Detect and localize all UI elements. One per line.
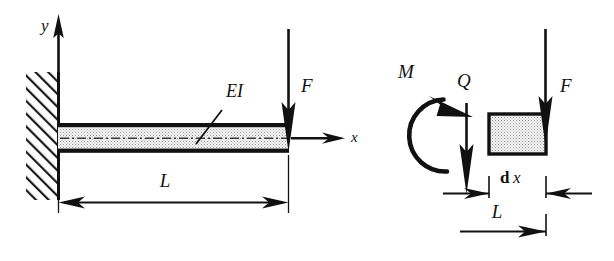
load-label-F-right: F (559, 75, 572, 96)
fixed-support-hatching (26, 72, 59, 200)
length-label-L-left: L (159, 170, 171, 191)
engineering-diagram-canvas: y EI F x (0, 0, 614, 261)
position-label-L-right: L (491, 201, 503, 222)
dx-label-d: d (500, 168, 510, 187)
x-axis-arrow (291, 133, 345, 144)
shear-label-Q: Q (457, 70, 471, 91)
cantilever-beam-group: y EI F x (26, 14, 358, 213)
dx-dimension-arrows (443, 188, 592, 199)
moment-label-M: M (397, 61, 415, 82)
length-dimension-arrow (59, 196, 289, 208)
dx-label-x: x (512, 168, 521, 187)
free-body-element-group: M Q F (397, 29, 592, 238)
dx-label-group: d x (500, 168, 521, 187)
beam-stiffness-label: EI (225, 81, 244, 101)
figure-root: y EI F x (0, 0, 614, 261)
y-axis-label: y (39, 16, 49, 35)
load-label-F-left: F (300, 75, 313, 96)
y-axis-arrow (53, 14, 64, 78)
differential-element-box (489, 114, 546, 154)
position-dimension-arrow (460, 226, 546, 238)
x-axis-label: x (350, 129, 358, 145)
